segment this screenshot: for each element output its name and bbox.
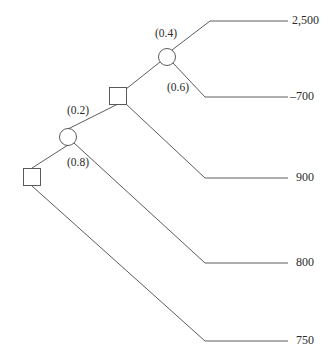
payoff-label-800: 800 (296, 256, 314, 268)
branch-decision2-to-chance2 (126, 62, 160, 89)
probability-label-0-8: (0.8) (67, 157, 89, 169)
root-decision-node[interactable] (24, 169, 41, 186)
chance-node-1[interactable] (60, 129, 77, 146)
probability-label-0-4: (0.4) (155, 28, 177, 40)
branch-chance2-to-2500 (172, 21, 288, 50)
payoff-label-900: 900 (296, 171, 314, 183)
probability-label-0-2: (0.2) (67, 105, 89, 117)
decision-tree-diagram: (0.4) (0.6) (0.2) (0.8) 2,500 –700 900 8… (0, 0, 332, 358)
branch-chance1-to-800 (74, 143, 288, 263)
payoff-label-750: 750 (296, 334, 314, 346)
probability-label-0-6: (0.6) (167, 82, 189, 94)
branch-decision2-to-900 (126, 104, 288, 178)
chance-node-2[interactable] (159, 49, 176, 66)
decision-node-2[interactable] (110, 88, 127, 105)
branch-chance2-to-minus700 (173, 63, 288, 97)
branch-root-to-chance1 (32, 145, 68, 168)
payoff-label-2500: 2,500 (292, 14, 319, 26)
node-layer (24, 49, 176, 186)
branch-layer (32, 21, 288, 341)
branch-root-to-750 (32, 186, 288, 341)
payoff-label-minus-700: –700 (290, 90, 314, 102)
tree-graphics (0, 0, 332, 358)
